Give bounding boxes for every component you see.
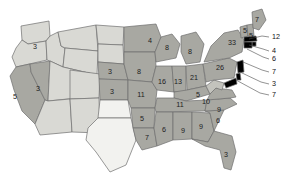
state-value-label-me: 7 xyxy=(255,15,259,24)
callout-value-ma: 12 xyxy=(272,32,280,41)
state-shape-newyork[interactable] xyxy=(204,30,244,62)
state-value-label-vt: 5 xyxy=(243,26,247,35)
callout-leader-nj xyxy=(243,62,269,72)
state-value-label-ny: 33 xyxy=(228,38,236,47)
state-value-label-la: 7 xyxy=(145,133,149,142)
state-value-label-oh: 21 xyxy=(190,73,198,82)
us-map-svg: 3533348115781681321511699369102633575 12… xyxy=(0,0,289,187)
callout-value-ct: 6 xyxy=(272,54,276,63)
state-shape-connecticut[interactable] xyxy=(244,42,252,48)
state-value-label-fl: 3 xyxy=(224,150,228,159)
state-shape-minnesota[interactable] xyxy=(124,24,161,52)
state-shape-michigan[interactable] xyxy=(181,32,204,64)
callout-value-nj: 7 xyxy=(272,67,276,76)
state-shape-southdakota[interactable] xyxy=(98,44,124,64)
state-shape-rhodeisland[interactable] xyxy=(252,42,256,46)
callout-value-md: 7 xyxy=(272,90,276,99)
state-shape-newjersey[interactable] xyxy=(237,60,244,73)
state-value-label-sc: 6 xyxy=(216,116,220,125)
state-value-label-mi: 8 xyxy=(188,47,192,56)
state-value-label-ms: 6 xyxy=(162,125,166,134)
state-value-label-mn: 4 xyxy=(148,36,152,45)
state-value-label-al: 9 xyxy=(181,126,185,135)
state-shape-maryland[interactable] xyxy=(224,78,237,88)
state-value-label-ca: 5 xyxy=(13,92,17,101)
state-shape-washington[interactable] xyxy=(21,21,50,44)
callout-value-de: 3 xyxy=(272,79,276,88)
state-value-label-tn: 11 xyxy=(176,100,183,109)
state-shape-northdakota[interactable] xyxy=(96,25,124,45)
callout-numbers-group: 1246737 xyxy=(272,32,280,99)
state-value-label-ia: 8 xyxy=(137,67,141,76)
state-value-label-pa: 26 xyxy=(216,63,224,72)
state-value-label-nc: 9 xyxy=(217,105,221,114)
state-value-label-wi: 8 xyxy=(165,43,169,52)
state-shape-nebraska[interactable] xyxy=(98,62,128,80)
state-value-label-mo: 11 xyxy=(137,90,144,99)
callout-leader-md xyxy=(236,80,269,95)
state-shape-montana[interactable] xyxy=(58,25,98,51)
state-value-label-ks: 3 xyxy=(110,87,114,96)
state-value-label-ga: 9 xyxy=(199,122,203,131)
state-shape-oklahoma[interactable] xyxy=(98,100,131,118)
state-value-label-ky: 5 xyxy=(196,90,200,99)
callout-leader-ct xyxy=(247,49,269,59)
state-value-label-il: 16 xyxy=(158,77,166,86)
state-shape-colorado[interactable] xyxy=(70,70,100,99)
state-shape-delaware[interactable] xyxy=(236,73,241,80)
state-value-label-nv: 3 xyxy=(36,84,40,93)
callout-leader-de xyxy=(240,72,269,84)
state-shape-texas[interactable] xyxy=(86,118,136,172)
state-value-label-wa: 3 xyxy=(33,42,37,51)
us-value-map: 3533348115781681321511699369102633575 12… xyxy=(0,0,289,187)
state-value-label-ar: 5 xyxy=(140,114,144,123)
state-value-label-ne: 3 xyxy=(108,67,112,76)
state-value-label-va: 10 xyxy=(202,97,210,106)
state-value-label-in: 13 xyxy=(174,77,182,86)
